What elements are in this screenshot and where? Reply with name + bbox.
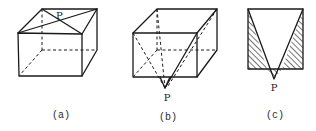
hidden-depth-edge bbox=[19, 50, 42, 76]
caption-c: (c) bbox=[266, 110, 284, 121]
figure-c: P (c) bbox=[248, 9, 303, 121]
front-face bbox=[133, 33, 197, 77]
right-face-edges bbox=[82, 9, 97, 76]
right-face-edges bbox=[197, 9, 217, 77]
point-label-p: P bbox=[271, 82, 278, 93]
figure-a: P (a) bbox=[18, 9, 97, 121]
point-label-p: P bbox=[56, 10, 63, 21]
figure-b: P (b) bbox=[133, 9, 217, 123]
three-cube-figures: P (a) P (b) P (c) bbox=[0, 0, 316, 131]
point-label-p: P bbox=[164, 92, 171, 103]
line-p-front-right bbox=[165, 33, 197, 88]
front-face bbox=[18, 33, 82, 76]
line-p-front-left bbox=[133, 33, 165, 88]
caption-b: (b) bbox=[159, 112, 177, 123]
line-p-back-right bbox=[168, 9, 217, 86]
caption-a: (a) bbox=[52, 110, 70, 121]
